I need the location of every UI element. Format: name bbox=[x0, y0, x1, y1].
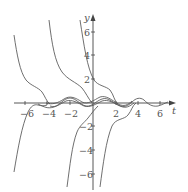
y-axis-arrow-icon bbox=[91, 14, 96, 21]
x-tick-label: −4 bbox=[42, 108, 56, 119]
y-axis-label: y bbox=[83, 12, 90, 23]
x-tick-label: 2 bbox=[113, 108, 119, 119]
y-tick-label: −6 bbox=[79, 169, 93, 180]
x-axis-label: t bbox=[172, 105, 177, 116]
y-tick-label: 2 bbox=[84, 74, 90, 85]
chart-plot: −6 −4 −2 2 4 6 6 4 2 −2 −4 −6 y t bbox=[0, 0, 188, 192]
axes: −6 −4 −2 2 4 6 6 4 2 −2 −4 −6 y t bbox=[14, 12, 177, 190]
x-tick-label: 6 bbox=[157, 108, 163, 119]
y-tick-label: −4 bbox=[79, 145, 93, 156]
x-tick-label: 4 bbox=[135, 108, 141, 119]
solution-curves bbox=[14, 20, 168, 187]
y-tick-label: 6 bbox=[84, 27, 90, 38]
x-tick-label: −2 bbox=[64, 108, 78, 119]
solution-curve-1 bbox=[14, 35, 50, 104]
y-tick-label: −2 bbox=[79, 121, 93, 132]
